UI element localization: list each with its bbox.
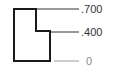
part-outline [14, 9, 50, 61]
ordinate-dimension-drawing: .700 .400 0 [0, 0, 113, 74]
dimension-label-700: .700 [81, 3, 102, 15]
dimension-label-400: .400 [81, 26, 102, 38]
dimension-label-zero: 0 [86, 55, 92, 67]
